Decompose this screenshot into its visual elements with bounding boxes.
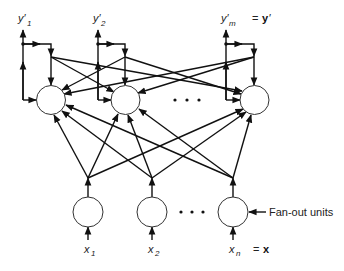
feedforward-connections [54,105,251,178]
fan-out-units-label: Fan-out units [269,206,334,218]
output-vector-prime: ′ [269,12,271,24]
input-label-n: x [228,243,235,255]
input-label-1-subscript: 1 [91,249,95,258]
input-vector-equals: = [253,243,259,255]
fan-out-stems [88,178,233,197]
input-ellipsis [179,210,204,213]
fan-out-node-n [218,197,248,227]
output-label-1: y′ [17,12,27,24]
output-node-1 [37,86,66,115]
output-ellipsis [173,98,200,101]
fan-out-node-1 [73,197,103,227]
output-vector-symbol: y [262,12,269,24]
output-node-m [240,86,269,115]
output-label-2-subscript: 2 [100,19,106,28]
output-vector-equals: = [252,12,258,24]
fan-out-node-2 [137,197,167,227]
output-label-1-subscript: 1 [27,19,31,28]
input-label-2-subscript: 2 [154,249,160,258]
feedback-cross-connections [51,57,254,94]
input-label-2: x [147,243,154,255]
network-diagram: y′ 1 y′ 2 y′ m = y ′ x 1 x 2 x n = x Fan… [0,0,344,271]
input-arrows [88,227,233,240]
input-vector-symbol: x [263,243,270,255]
input-label-1: x [83,243,90,255]
output-label-m-subscript: m [229,19,236,28]
input-label-n-subscript: n [236,249,241,258]
output-node-2 [111,86,140,115]
